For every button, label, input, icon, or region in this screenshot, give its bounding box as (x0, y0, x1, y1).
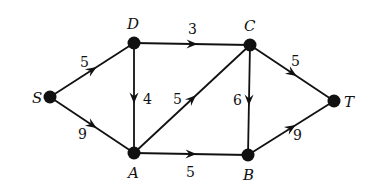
node-label-d: D (126, 15, 139, 33)
node-a (128, 147, 141, 160)
edge-weight-label: 4 (143, 91, 152, 107)
edge-weight-label: 5 (291, 53, 300, 69)
edge-weight-label: 5 (173, 91, 182, 107)
edge-weight-label: 6 (233, 92, 242, 108)
node-label-a: A (126, 164, 139, 182)
node-label-t: T (344, 93, 355, 111)
edge-c-b (245, 45, 254, 155)
node-c (244, 39, 257, 52)
edge-weight-label: 5 (80, 54, 89, 70)
edge-b-t (248, 101, 334, 155)
node-label-b: B (242, 166, 254, 184)
edge-weight-label: 9 (293, 127, 302, 143)
node-label-s: S (32, 89, 42, 107)
edge-weight-label: 3 (188, 21, 197, 37)
node-label-c: C (244, 17, 256, 35)
edge-a-b (134, 149, 248, 158)
edge-d-a (130, 43, 139, 153)
node-b (242, 149, 255, 162)
node-d (128, 37, 141, 50)
edge-weight-label: 5 (186, 164, 195, 180)
edge-weight-label: 9 (78, 126, 87, 142)
node-t (328, 95, 341, 108)
edge-s-d (50, 43, 134, 97)
edge-d-c (134, 39, 250, 48)
node-s (44, 91, 57, 104)
edge-s-a (50, 97, 134, 153)
weighted-directed-graph: 593455659SDCABT (0, 0, 380, 195)
